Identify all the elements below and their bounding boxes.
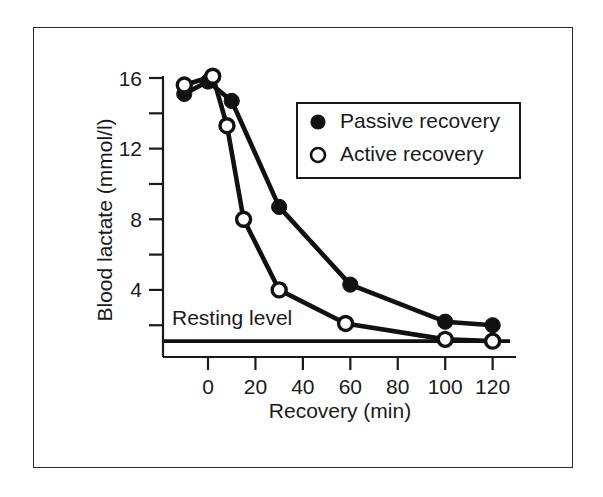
- x-axis-tick-label: 120: [475, 375, 510, 398]
- chart-legend: Passive recoveryActive recovery: [297, 103, 520, 178]
- data-point-open: [438, 332, 452, 346]
- data-point-open: [486, 334, 500, 348]
- x-axis-tick-label: 40: [291, 375, 314, 398]
- x-axis-tick-label: 100: [428, 375, 463, 398]
- y-axis-tick-label: 16: [119, 67, 142, 90]
- legend-marker-open-circle-icon: [311, 148, 325, 162]
- x-axis-ticks: [208, 357, 493, 370]
- y-axis-tick-labels: 481216: [119, 67, 143, 302]
- y-axis: 481216 Blood lactate (mmol/l): [93, 67, 163, 358]
- blood-lactate-recovery-chart: 481216 Blood lactate (mmol/l) 0204060801…: [0, 0, 603, 497]
- resting-level-label: Resting level: [172, 306, 292, 329]
- y-axis-title: Blood lactate (mmol/l): [93, 118, 116, 321]
- data-point-open: [272, 283, 286, 297]
- y-axis-tick-label: 8: [130, 208, 142, 231]
- data-point-filled: [438, 314, 453, 329]
- data-point-open: [339, 316, 353, 330]
- y-axis-tick-label: 4: [130, 278, 142, 301]
- y-axis-ticks: [149, 78, 163, 325]
- y-axis-tick-label: 12: [119, 137, 142, 160]
- data-point-filled: [272, 199, 287, 214]
- x-axis-tick-label: 60: [339, 375, 362, 398]
- x-axis-tick-labels: 020406080100120: [202, 375, 510, 398]
- data-point-open: [220, 119, 234, 133]
- x-axis-title: Recovery (min): [269, 399, 411, 422]
- x-axis: 020406080100120 Recovery (min): [163, 357, 516, 422]
- data-point-open: [177, 78, 191, 92]
- data-point-open: [237, 212, 251, 226]
- data-point-filled: [485, 318, 500, 333]
- legend-marker-filled-circle-icon: [310, 114, 325, 129]
- x-axis-tick-label: 80: [386, 375, 409, 398]
- data-point-filled: [343, 277, 358, 292]
- x-axis-tick-label: 0: [202, 375, 214, 398]
- data-point-open: [206, 69, 220, 83]
- legend-label: Active recovery: [340, 142, 484, 165]
- legend-label: Passive recovery: [340, 109, 500, 132]
- figure-root: 481216 Blood lactate (mmol/l) 0204060801…: [0, 0, 603, 497]
- data-point-filled: [224, 93, 239, 108]
- x-axis-tick-label: 20: [244, 375, 267, 398]
